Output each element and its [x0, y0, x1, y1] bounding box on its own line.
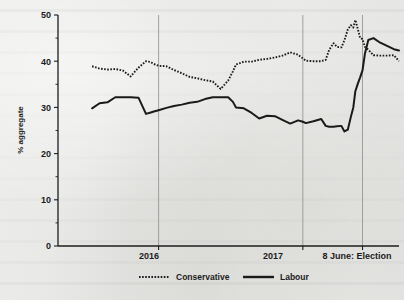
y-tick-label-0: 0 [46, 241, 51, 251]
y-tick-label-10: 10 [41, 195, 51, 205]
y-tick-label-40: 40 [41, 57, 51, 67]
chart-canvas: 01020304050 % aggregate 2016 2017 8 June… [0, 0, 404, 300]
chart-legend: Conservative Labour [139, 272, 309, 282]
y-tick-label-20: 20 [41, 149, 51, 159]
legend-label-conservative: Conservative [176, 272, 230, 282]
y-axis-title: % aggregate [16, 106, 25, 154]
y-axis-ticks: 01020304050 [41, 10, 58, 251]
series-line-labour [92, 38, 399, 131]
x-tick-label-election: 8 June: Election [322, 251, 391, 261]
line-chart-figure: 01020304050 % aggregate 2016 2017 8 June… [0, 0, 404, 300]
x-tick-label-2016: 2016 [139, 251, 159, 261]
y-tick-label-30: 30 [41, 103, 51, 113]
vertical-gridlines [159, 15, 363, 250]
series-line-conservative [92, 20, 399, 89]
y-tick-label-50: 50 [41, 10, 51, 20]
legend-label-labour: Labour [280, 272, 309, 282]
x-tick-label-2017: 2017 [263, 251, 283, 261]
